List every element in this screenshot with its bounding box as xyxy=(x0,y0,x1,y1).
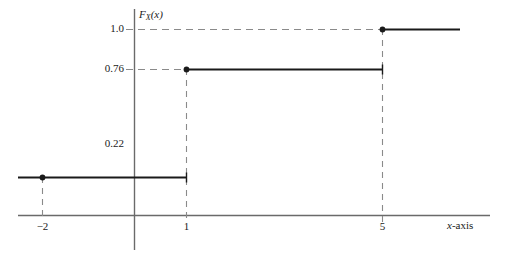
jump-point-marker-xneg2 xyxy=(40,175,46,181)
x-tick-label-1: 1 xyxy=(167,221,206,232)
jump-point-marker-x5 xyxy=(380,27,386,33)
x-tick-label-neg2: −2 xyxy=(22,221,63,232)
x-axis-title-suffix: -axis xyxy=(452,219,473,231)
y-axis-title-argument: (x) xyxy=(151,8,163,20)
y-tick-label-1: 1.0 xyxy=(78,23,124,34)
x-axis-title: x-axis xyxy=(447,220,473,231)
y-tick-label-022: 0.22 xyxy=(78,138,124,149)
y-axis-title-F: F xyxy=(139,8,146,20)
cdf-step-chart: 1.0 0.76 0.22 −2 1 5 FX(x) x-axis xyxy=(0,0,507,256)
jump-point-marker-x1 xyxy=(184,67,190,73)
y-axis-title: FX(x) xyxy=(139,9,163,22)
y-tick-label-076: 0.76 xyxy=(78,63,124,74)
plot-canvas xyxy=(0,0,507,256)
x-tick-label-5: 5 xyxy=(363,221,402,232)
